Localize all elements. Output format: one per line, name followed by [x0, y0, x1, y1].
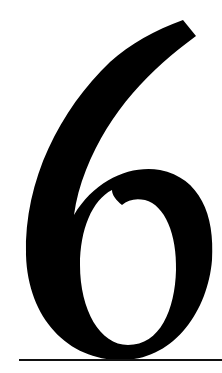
numeral-six-figure — [0, 0, 222, 373]
baseline-rule — [19, 359, 222, 361]
numeral-six-glyph — [26, 20, 212, 360]
